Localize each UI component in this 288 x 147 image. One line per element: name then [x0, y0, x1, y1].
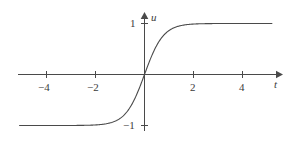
y-axis-name-label: u: [151, 12, 157, 23]
x-tick-label-2: 2: [190, 82, 196, 93]
y-axis-arrow-icon: [141, 12, 149, 19]
y-tick-label-1: 1: [130, 18, 136, 29]
y-tick-label-minus-1: −1: [123, 120, 135, 131]
x-axis-name-label: t: [274, 79, 277, 90]
x-axis-arrow-icon: [276, 71, 283, 79]
x-tick-label-minus-2: −2: [87, 82, 99, 93]
chart-figure: −4 −2 2 4 1 −1 u t: [0, 0, 288, 147]
plot-canvas: [0, 0, 288, 147]
x-tick-label-4: 4: [239, 82, 245, 93]
x-tick-label-minus-4: −4: [38, 82, 50, 93]
